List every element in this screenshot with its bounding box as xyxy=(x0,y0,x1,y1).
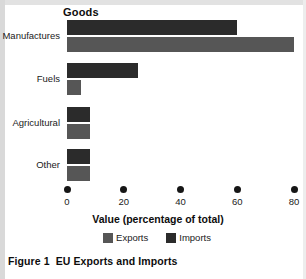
legend-swatch-exports-icon xyxy=(103,233,113,243)
chart-legend: ExportsImports xyxy=(0,232,306,243)
category-label-other: Other xyxy=(0,160,60,170)
x-tick-dot-60 xyxy=(234,186,241,193)
bar-group: Other xyxy=(0,149,306,181)
figure-title: EU Exports and Imports xyxy=(56,255,178,267)
chart-title: Goods xyxy=(63,6,99,18)
legend-item-imports: Imports xyxy=(166,232,211,243)
x-tick-dot-40 xyxy=(177,186,184,193)
bar-other-exports xyxy=(67,166,90,181)
bar-other-imports xyxy=(67,149,90,164)
figure-number: Figure 1 xyxy=(8,255,50,267)
bar-group: Fuels xyxy=(0,63,306,95)
x-tick-dot-80 xyxy=(291,186,298,193)
bar-agricultural-exports xyxy=(67,124,90,139)
legend-label-imports: Imports xyxy=(179,232,211,243)
bar-fuels-imports xyxy=(67,63,138,78)
figure-caption: Figure 1EU Exports and Imports xyxy=(8,255,177,267)
x-axis-title: Value (percentage of total) xyxy=(0,213,306,225)
legend-item-exports: Exports xyxy=(103,232,148,243)
x-tick-label-60: 60 xyxy=(232,196,243,207)
x-tick-dot-0 xyxy=(64,186,71,193)
legend-label-exports: Exports xyxy=(116,232,148,243)
bar-manufactures-imports xyxy=(67,20,237,35)
x-tick-label-40: 40 xyxy=(175,196,186,207)
x-tick-label-80: 80 xyxy=(289,196,300,207)
bar-chart-plot-area: Goods ManufacturesFuelsAgriculturalOther… xyxy=(0,0,306,200)
bar-agricultural-imports xyxy=(67,107,90,122)
bar-fuels-exports xyxy=(67,80,81,95)
bar-manufactures-exports xyxy=(67,37,294,52)
legend-swatch-imports-icon xyxy=(166,233,176,243)
category-label-agricultural: Agricultural xyxy=(0,118,60,128)
x-tick-label-0: 0 xyxy=(64,196,69,207)
figure-container: Goods ManufacturesFuelsAgriculturalOther… xyxy=(0,0,306,279)
category-label-fuels: Fuels xyxy=(0,74,60,84)
bar-group: Agricultural xyxy=(0,107,306,139)
x-axis: 020406080 xyxy=(0,186,306,212)
x-tick-label-20: 20 xyxy=(118,196,129,207)
x-tick-dot-20 xyxy=(120,186,127,193)
category-label-manufactures: Manufactures xyxy=(0,31,60,41)
bar-group: Manufactures xyxy=(0,20,306,52)
